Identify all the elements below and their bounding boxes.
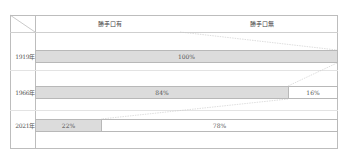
year-label: 1966年 bbox=[10, 88, 35, 97]
value-label: 22% bbox=[36, 120, 101, 131]
value-label: 84% bbox=[36, 87, 288, 98]
value-label: 16% bbox=[289, 87, 337, 98]
bar-with-2021: 22% bbox=[35, 119, 102, 132]
bar-with-1919: 100% bbox=[35, 50, 338, 63]
value-label: 100% bbox=[36, 51, 337, 62]
bar-without-2021: 78% bbox=[101, 119, 338, 132]
year-label: 1919年 bbox=[10, 52, 35, 61]
bar-without-1966: 16% bbox=[288, 86, 338, 99]
value-label: 78% bbox=[102, 120, 337, 131]
year-label: 2021年 bbox=[10, 121, 35, 130]
header-without-back-door: 勝手口無 bbox=[185, 15, 338, 32]
header-with-back-door: 勝手口有 bbox=[35, 15, 185, 32]
bar-with-1966: 84% bbox=[35, 86, 289, 99]
